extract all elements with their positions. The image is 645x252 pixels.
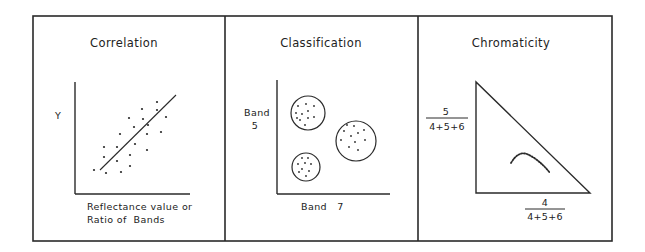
data-point	[297, 105, 299, 107]
data-point	[363, 129, 365, 131]
data-point	[156, 109, 158, 111]
data-point	[147, 124, 149, 126]
data-point	[295, 112, 297, 114]
data-point	[304, 162, 306, 164]
chromaticity-curve	[511, 153, 550, 173]
class-clusters	[291, 96, 376, 181]
data-point	[305, 175, 307, 177]
x-axis-label: Band 7	[301, 201, 344, 212]
regression-line	[100, 95, 176, 170]
data-point	[354, 141, 356, 143]
data-point	[133, 126, 135, 128]
data-point	[296, 117, 298, 119]
data-point	[350, 135, 352, 137]
data-point	[142, 118, 144, 120]
data-point	[313, 105, 315, 107]
y-axis-label-line1: Band	[244, 107, 270, 118]
x-axis-label-line1: Reflectance value or	[87, 201, 192, 212]
data-point	[146, 133, 148, 135]
data-point	[346, 124, 348, 126]
chromaticity-triangle	[476, 82, 590, 193]
data-point	[343, 130, 345, 132]
cluster-boundary	[336, 121, 376, 161]
panel-title-classification: Classification	[280, 36, 362, 50]
data-point	[105, 172, 107, 174]
data-point	[348, 146, 350, 148]
data-point	[357, 149, 359, 151]
scatter-points	[93, 101, 167, 174]
panel-title-correlation: Correlation	[90, 36, 158, 50]
data-point	[120, 171, 122, 173]
x-fraction-denominator: 4+5+6	[527, 211, 563, 222]
data-point	[134, 143, 136, 145]
x-axis-label-line2: Ratio of Bands	[87, 214, 165, 225]
data-point	[141, 108, 143, 110]
remote-sensing-methods-figure: Correlation Y Reflectance value or Ratio…	[0, 0, 645, 252]
data-point	[305, 103, 307, 105]
panel-title-chromaticity: Chromaticity	[472, 36, 550, 50]
data-point	[165, 116, 167, 118]
data-point	[129, 154, 131, 156]
y-axis-label-line2: 5	[252, 120, 258, 131]
y-fraction-numerator: 5	[443, 106, 449, 117]
data-point	[353, 125, 355, 127]
data-point	[156, 101, 158, 103]
panel-classification: Classification Band 5 Band 7	[244, 36, 390, 212]
data-point	[299, 119, 301, 121]
x-fraction-numerator: 4	[542, 197, 548, 208]
data-point	[116, 160, 118, 162]
data-point	[307, 117, 309, 119]
data-point	[340, 139, 342, 141]
data-point	[308, 170, 310, 172]
data-point	[307, 157, 309, 159]
y-fraction-denominator: 4+5+6	[429, 121, 465, 132]
data-point	[301, 113, 303, 115]
panel-correlation: Correlation Y Reflectance value or Ratio…	[54, 36, 193, 225]
panel-chromaticity: Chromaticity 5 4+5+6 4 4+5+6	[426, 36, 590, 222]
data-point	[297, 163, 299, 165]
data-point	[160, 131, 162, 133]
data-point	[364, 139, 366, 141]
data-point	[103, 156, 105, 158]
data-point	[119, 133, 121, 135]
data-point	[304, 124, 306, 126]
data-point	[93, 169, 95, 171]
data-point	[313, 116, 315, 118]
data-point	[146, 149, 148, 151]
data-point	[301, 157, 303, 159]
cluster-3	[292, 153, 320, 181]
data-point	[129, 165, 131, 167]
data-point	[298, 171, 300, 173]
cluster-2	[336, 121, 376, 161]
data-point	[128, 117, 130, 119]
y-axis-label: Y	[54, 110, 61, 121]
data-point	[301, 168, 303, 170]
data-point	[116, 146, 118, 148]
data-point	[357, 132, 359, 134]
data-point	[307, 110, 309, 112]
data-point	[310, 163, 312, 165]
cluster-1	[291, 96, 325, 130]
data-point	[103, 146, 105, 148]
